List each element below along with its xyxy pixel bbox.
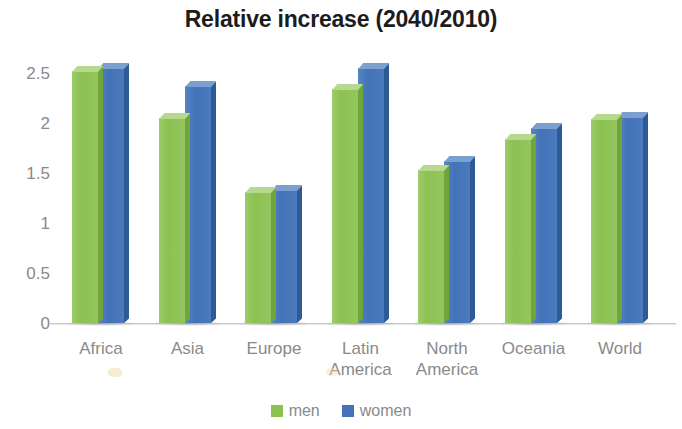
bar-side-face — [185, 113, 190, 323]
bar-side-face — [617, 114, 622, 323]
bar-top-face — [418, 165, 449, 171]
bar-front-face — [159, 118, 185, 323]
bar-men-latin-america[interactable] — [332, 89, 358, 323]
bar-men-north-america[interactable] — [418, 170, 444, 323]
bar-men-europe[interactable] — [245, 192, 271, 323]
bar-side-face — [124, 63, 129, 323]
plot-area: AfricaAsiaEuropeLatinAmericaNorthAmerica… — [0, 0, 682, 429]
bar-men-oceania[interactable] — [505, 139, 531, 323]
legend-label: men — [289, 402, 320, 420]
bar-front-face — [591, 119, 617, 323]
bar-top-face — [591, 114, 622, 120]
legend-swatch-icon — [271, 405, 283, 417]
bar-side-face — [643, 112, 648, 323]
legend-swatch-icon — [342, 405, 354, 417]
bar-top-face — [185, 81, 216, 87]
bar-top-face — [505, 134, 536, 140]
bar-side-face — [384, 63, 389, 323]
bar-front-face — [505, 139, 531, 323]
bar-side-face — [358, 84, 363, 323]
bar-men-asia[interactable] — [159, 118, 185, 323]
x-axis-tick-label-line: World — [560, 338, 680, 359]
bar-side-face — [271, 187, 276, 323]
x-axis-tick-label-line: America — [387, 359, 507, 380]
bar-top-face — [245, 187, 276, 193]
bar-top-face — [358, 63, 389, 69]
bar-front-face — [245, 192, 271, 323]
legend-item-men[interactable]: men — [271, 402, 320, 420]
bar-side-face — [470, 156, 475, 323]
bar-men-world[interactable] — [591, 119, 617, 323]
legend-item-women[interactable]: women — [342, 402, 412, 420]
bar-men-africa[interactable] — [72, 71, 98, 323]
bar-side-face — [98, 66, 103, 323]
bar-side-face — [444, 165, 449, 323]
bar-side-face — [557, 123, 562, 323]
bar-front-face — [418, 170, 444, 323]
chart-legend: menwomen — [0, 402, 682, 420]
bar-top-face — [444, 156, 475, 162]
bar-side-face — [297, 185, 302, 323]
legend-label: women — [360, 402, 412, 420]
bar-top-face — [159, 113, 190, 119]
bar-front-face — [332, 89, 358, 323]
bar-front-face — [72, 71, 98, 323]
bar-side-face — [211, 81, 216, 323]
bar-top-face — [72, 66, 103, 72]
bar-side-face — [531, 134, 536, 323]
x-axis-tick-label: World — [560, 338, 680, 359]
bar-top-face — [332, 84, 363, 90]
bar-top-face — [531, 123, 562, 129]
